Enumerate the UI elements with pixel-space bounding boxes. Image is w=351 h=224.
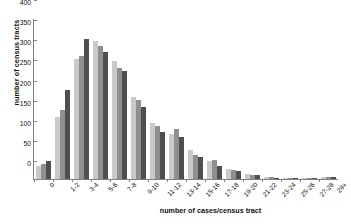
y-tick-label: 100 (20, 120, 34, 127)
y-tick-label: 300 (20, 39, 34, 46)
y-tick-label: 0 (27, 160, 34, 167)
bar-group (148, 19, 167, 179)
y-tick-0: 0 (27, 152, 34, 170)
y-tick-400: 400 (20, 0, 34, 9)
bar (141, 107, 146, 179)
bar-group (243, 19, 262, 179)
bar (255, 175, 260, 179)
y-tick-350: 350 (20, 11, 34, 29)
x-tick-label: 11-12 (166, 181, 183, 198)
bar (236, 171, 241, 179)
x-tick-label: 23-24 (280, 181, 297, 198)
x-tick-label: 0 (48, 181, 56, 189)
x-tick-label: 19-20 (242, 181, 259, 198)
x-tick-label: 25-26 (299, 181, 316, 198)
x-axis-title: number of cases/census tract (0, 206, 351, 215)
bar-group (300, 19, 319, 179)
x-tick-label: 29+ (336, 181, 349, 194)
y-tick-100: 100 (20, 112, 34, 130)
bar-group (110, 19, 129, 179)
bar-group (34, 19, 53, 179)
bar-group (72, 19, 91, 179)
bar (179, 137, 184, 179)
x-tick-label: 27-28 (318, 181, 335, 198)
bar-group (186, 19, 205, 179)
x-tick-label: 3-4 (87, 181, 99, 193)
bar-groups (34, 19, 338, 179)
chart-container: number of census tracts 0501001502002503… (0, 0, 351, 224)
bar (274, 178, 279, 179)
y-tick-150: 150 (20, 92, 34, 110)
x-tick-label: 1-2 (68, 181, 80, 193)
bar-group (319, 19, 338, 179)
bar (331, 177, 336, 179)
x-tick-label: 17-18 (223, 181, 240, 198)
bar (65, 90, 70, 179)
bar (103, 52, 108, 179)
bar-group (167, 19, 186, 179)
bar (46, 161, 51, 179)
bar-group (224, 19, 243, 179)
bar (293, 178, 298, 179)
x-tick-label: 9-10 (146, 181, 160, 195)
x-tick-label: 15-16 (204, 181, 221, 198)
y-tick-label: 350 (20, 19, 34, 26)
x-tick-label: 5-6 (107, 181, 119, 193)
bar-group (53, 19, 72, 179)
bar (122, 71, 127, 179)
bar (84, 39, 89, 179)
x-tick-label: 13-14 (185, 181, 202, 198)
bar (160, 132, 165, 179)
y-tick-200: 200 (20, 72, 34, 90)
bar-group (205, 19, 224, 179)
y-tick-250: 250 (20, 51, 34, 69)
x-tick-label: 7-8 (126, 181, 138, 193)
y-tick-label: 150 (20, 100, 34, 107)
plot-area: 050100150200250300350400 (33, 19, 338, 180)
bar-group (262, 19, 281, 179)
y-tick-label: 250 (20, 59, 34, 66)
bar (217, 166, 222, 179)
bar-group (281, 19, 300, 179)
y-tick-label: 50 (23, 140, 34, 147)
bar-group (129, 19, 148, 179)
y-tick-300: 300 (20, 31, 34, 49)
y-tick-mark (34, 0, 37, 1)
y-tick-label: 400 (20, 0, 34, 6)
x-tick-label: 21-22 (261, 181, 278, 198)
bar (198, 157, 203, 179)
bar-group (91, 19, 110, 179)
bar (312, 178, 317, 179)
y-tick-50: 50 (23, 132, 34, 150)
y-tick-label: 200 (20, 80, 34, 87)
